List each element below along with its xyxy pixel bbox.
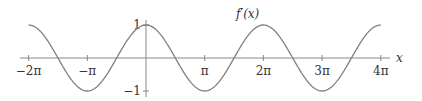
x-tick-label: −2π xyxy=(16,64,42,78)
x-tick-label: −π xyxy=(78,64,96,78)
x-tick-label: π xyxy=(201,64,209,78)
cosine-chart: −2π−ππ2π3π4π 1−1 f′(x) x xyxy=(0,0,422,101)
y-tick-label: −1 xyxy=(123,84,141,98)
y-tick-label: 1 xyxy=(133,18,141,32)
function-label: f′(x) xyxy=(235,7,260,21)
x-tick-label: 3π xyxy=(314,64,330,78)
x-axis-label: x xyxy=(396,51,403,65)
x-tick-label: 4π xyxy=(373,64,389,78)
x-tick-label: 2π xyxy=(256,64,272,78)
